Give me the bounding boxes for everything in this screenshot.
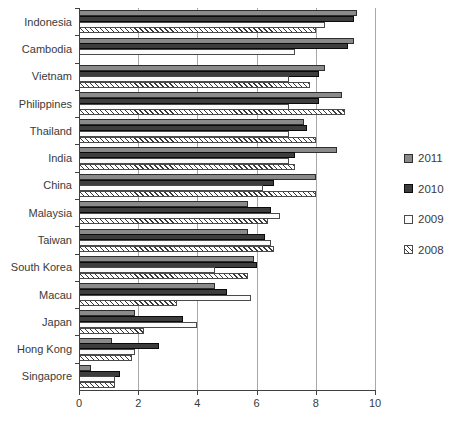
category-label-singapore: Singapore <box>0 370 72 382</box>
bar-macau-2008 <box>79 300 177 306</box>
y-axis-tick <box>75 254 79 255</box>
x-axis-tick-6 <box>257 391 258 395</box>
y-axis-line <box>79 8 80 391</box>
y-axis-tick <box>75 226 79 227</box>
legend-swatch-2009 <box>404 215 413 224</box>
x-axis-tick-2 <box>138 391 139 395</box>
x-tick-label-0: 0 <box>69 397 89 409</box>
category-label-india: India <box>0 152 72 164</box>
bar-indonesia-2008 <box>79 27 316 33</box>
category-label-philippines: Philippines <box>0 98 72 110</box>
x-tick-label-10: 10 <box>365 397 385 409</box>
legend-label-2009: 2009 <box>418 213 444 225</box>
x-axis-line <box>79 390 376 391</box>
legend-label-2008: 2008 <box>418 244 444 256</box>
bar-india-2008 <box>79 164 295 170</box>
category-label-malaysia: Malaysia <box>0 207 72 219</box>
y-axis-tick <box>75 144 79 145</box>
x-axis-tick-8 <box>316 391 317 395</box>
x-tick-label-4: 4 <box>187 397 207 409</box>
x-tick-label-6: 6 <box>247 397 267 409</box>
gridline-x-10 <box>375 8 376 390</box>
legend-item-2011: 2011 <box>404 152 443 164</box>
legend-item-2010: 2010 <box>404 183 444 195</box>
y-axis-tick <box>75 281 79 282</box>
category-label-japan: Japan <box>0 316 72 328</box>
y-axis-tick <box>75 363 79 364</box>
legend-item-2008: 2008 <box>404 244 444 256</box>
y-axis-tick <box>75 90 79 91</box>
y-axis-tick <box>75 199 79 200</box>
y-axis-tick <box>75 35 79 36</box>
y-axis-tick <box>75 63 79 64</box>
y-axis-tick <box>75 308 79 309</box>
bar-china-2008 <box>79 191 316 197</box>
category-label-hong-kong: Hong Kong <box>0 343 72 355</box>
bar-taiwan-2008 <box>79 246 274 252</box>
bar-malaysia-2008 <box>79 218 268 224</box>
bar-japan-2008 <box>79 328 144 334</box>
category-label-china: China <box>0 179 72 191</box>
legend-swatch-2010 <box>404 184 413 193</box>
legend-swatch-2011 <box>404 154 413 163</box>
category-label-taiwan: Taiwan <box>0 234 72 246</box>
category-label-macau: Macau <box>0 289 72 301</box>
x-axis-tick-10 <box>375 391 376 395</box>
bar-thailand-2008 <box>79 137 316 143</box>
x-axis-tick-0 <box>79 391 80 395</box>
x-tick-label-8: 8 <box>306 397 326 409</box>
bar-vietnam-2008 <box>79 82 310 88</box>
legend-item-2009: 2009 <box>404 213 444 225</box>
x-tick-label-2: 2 <box>128 397 148 409</box>
category-label-vietnam: Vietnam <box>0 70 72 82</box>
x-axis-tick-4 <box>197 391 198 395</box>
category-label-thailand: Thailand <box>0 125 72 137</box>
category-label-south-korea: South Korea <box>0 261 72 273</box>
y-axis-tick <box>75 335 79 336</box>
bar-singapore-2008 <box>79 382 115 388</box>
y-axis-tick <box>75 8 79 9</box>
y-axis-tick <box>75 172 79 173</box>
legend-label-2011: 2011 <box>418 152 443 164</box>
y-axis-tick <box>75 117 79 118</box>
bar-cambodia-2009 <box>79 49 295 55</box>
category-label-cambodia: Cambodia <box>0 43 72 55</box>
plot-area <box>79 8 375 390</box>
bar-philippines-2008 <box>79 109 345 115</box>
legend-swatch-2008 <box>404 245 413 254</box>
category-label-indonesia: Indonesia <box>0 16 72 28</box>
bar-hong-kong-2008 <box>79 355 132 361</box>
bar-chart: IndonesiaCambodiaVietnamPhilippinesThail… <box>0 0 453 423</box>
legend-label-2010: 2010 <box>418 183 444 195</box>
bar-south-korea-2008 <box>79 273 248 279</box>
